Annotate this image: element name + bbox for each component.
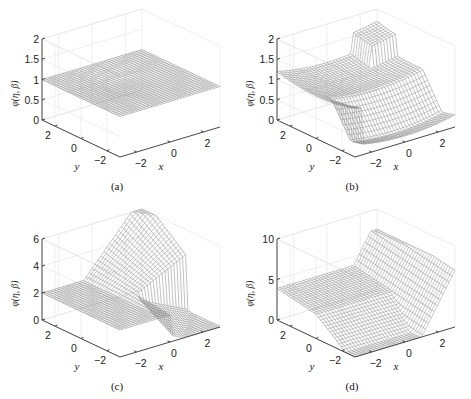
y-tick-label: 2 (280, 329, 286, 341)
y-axis-label: y (309, 360, 315, 372)
z-tick-label: 2 (33, 287, 39, 299)
z-tick-label: 10 (262, 233, 274, 245)
subplot-caption: (d) (346, 380, 359, 393)
x-tick-label: 2 (439, 137, 445, 149)
y-tick-label: −2 (329, 154, 341, 166)
z-tick-label: 0 (33, 114, 39, 126)
x-tick-label: 0 (406, 347, 412, 359)
surface-wireframe (42, 50, 220, 117)
surface-plot-a: 00.511.5220−2−202φ(η, β)yx(a) (0, 0, 235, 199)
x-tick-label: 2 (204, 337, 210, 349)
subplot-a: 00.511.5220−2−202φ(η, β)yx(a) (0, 0, 235, 199)
x-tick-label: 2 (439, 337, 445, 349)
x-axis-label: x (393, 160, 399, 172)
z-tick-label: 0 (33, 314, 39, 326)
surface-plot-c: 024620−2−202φ(η, β)yx(c) (0, 200, 235, 399)
x-tick-label: 0 (406, 147, 412, 159)
z-tick-label: 5 (268, 274, 274, 286)
y-tick-label: 2 (45, 129, 51, 141)
y-tick-label: −2 (329, 354, 341, 366)
x-axis-label: x (393, 360, 399, 372)
z-tick-label: 1 (268, 74, 274, 86)
z-tick-label: 2 (33, 33, 39, 45)
z-tick-label: 0 (268, 114, 274, 126)
y-tick-label: −2 (94, 154, 106, 166)
x-axis-label: x (158, 160, 164, 172)
subplot-c: 024620−2−202φ(η, β)yx(c) (0, 200, 235, 399)
z-axis-label: φ(η, β) (10, 281, 21, 307)
z-tick-label: 4 (33, 260, 39, 272)
surface-wireframe (42, 209, 220, 337)
z-axis-label: φ(η, β) (245, 281, 256, 307)
x-tick-label: −2 (370, 357, 382, 369)
subplot-caption: (b) (346, 180, 359, 193)
y-tick-label: 0 (306, 142, 312, 154)
y-tick-label: 0 (306, 342, 312, 354)
z-tick-label: 1.5 (24, 53, 39, 65)
x-tick-label: 0 (171, 347, 177, 359)
y-tick-label: 2 (280, 129, 286, 141)
y-tick-label: 0 (71, 142, 77, 154)
y-tick-label: −2 (94, 354, 106, 366)
z-tick-label: 0.5 (259, 94, 274, 106)
subplot-caption: (a) (111, 180, 124, 193)
y-axis-label: y (74, 160, 80, 172)
z-axis-label: φ(η, β) (10, 81, 21, 107)
surface-plot-b: 00.511.5220−2−202φ(η, β)yx(b) (235, 0, 470, 199)
z-tick-label: 1 (33, 74, 39, 86)
y-axis-label: y (309, 160, 315, 172)
x-axis-label: x (158, 360, 164, 372)
z-axis-label: φ(η, β) (245, 81, 256, 107)
y-axis-label: y (74, 360, 80, 372)
y-tick-label: 2 (45, 329, 51, 341)
z-tick-label: 6 (33, 233, 39, 245)
x-tick-label: −2 (135, 157, 147, 169)
x-tick-label: −2 (370, 157, 382, 169)
x-tick-label: 0 (171, 147, 177, 159)
surface-plot-d: 051020−2−202φ(η, β)yx(d) (235, 200, 470, 399)
y-tick-label: 0 (71, 342, 77, 354)
z-tick-label: 0.5 (24, 94, 39, 106)
x-tick-label: 2 (204, 137, 210, 149)
subplot-b: 00.511.5220−2−202φ(η, β)yx(b) (235, 0, 470, 199)
z-tick-label: 0 (268, 314, 274, 326)
surface-wireframe (277, 21, 455, 144)
z-tick-label: 2 (268, 33, 274, 45)
subplot-d: 051020−2−202φ(η, β)yx(d) (235, 200, 470, 399)
x-tick-label: −2 (135, 357, 147, 369)
surface-wireframe (277, 229, 455, 356)
subplot-caption: (c) (111, 380, 124, 393)
z-tick-label: 1.5 (259, 53, 274, 65)
